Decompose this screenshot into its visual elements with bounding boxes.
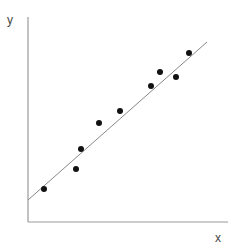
data-point bbox=[148, 83, 154, 89]
y-axis-label: y bbox=[7, 13, 13, 27]
trend-line bbox=[28, 42, 207, 200]
data-point bbox=[73, 166, 79, 172]
data-point bbox=[157, 69, 163, 75]
data-point bbox=[186, 50, 192, 56]
x-axis-label: x bbox=[215, 231, 221, 245]
scatter-plot: y x bbox=[0, 0, 242, 249]
data-point bbox=[41, 186, 47, 192]
data-point bbox=[117, 108, 123, 114]
data-points bbox=[41, 50, 192, 192]
data-point bbox=[78, 146, 84, 152]
data-point bbox=[96, 120, 102, 126]
data-point bbox=[173, 74, 179, 80]
